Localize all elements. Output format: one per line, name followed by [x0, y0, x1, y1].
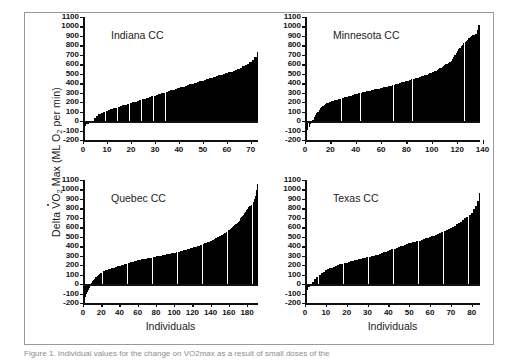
y-tick-label: 400 — [288, 79, 301, 87]
x-tick-label: 20 — [342, 309, 351, 317]
y-tick-mark — [302, 256, 306, 257]
y-tick-mark — [302, 64, 306, 65]
y-tick-label: 800 — [66, 41, 79, 49]
x-tick-label: 0 — [303, 146, 307, 154]
y-tick-label: -100 — [63, 127, 79, 135]
y-tick-label: 100 — [66, 108, 79, 116]
y-tick-mark — [302, 26, 306, 27]
y-tick-mark — [302, 93, 306, 94]
y-tick-mark — [80, 275, 84, 276]
y-tick-label: 700 — [288, 51, 301, 59]
y-tick-mark — [80, 199, 84, 200]
x-tick-mark — [131, 140, 132, 144]
x-tick-label: 100 — [425, 146, 438, 154]
zero-baseline — [83, 284, 258, 286]
x-tick-mark — [457, 140, 458, 144]
x-tick-mark — [432, 140, 433, 144]
x-tick-mark — [483, 140, 484, 144]
x-tick-mark — [381, 140, 382, 144]
x-tick-labels-indiana: 010203040506070 — [83, 146, 258, 158]
y-tick-mark — [80, 83, 84, 84]
y-tick-label: 400 — [288, 242, 301, 250]
y-tick-label: -200 — [285, 136, 301, 144]
y-tick-labels-minnesota: 110010009008007006005004003002001000-100… — [277, 17, 303, 140]
x-tick-label: 60 — [133, 309, 142, 317]
y-tick-label: 600 — [288, 223, 301, 231]
y-tick-label: 1000 — [61, 185, 79, 193]
x-tick-label: 80 — [151, 309, 160, 317]
x-tick-mark — [203, 140, 204, 144]
y-tick-label: 0 — [297, 117, 301, 125]
x-tick-mark — [430, 303, 431, 307]
y-tick-mark — [80, 17, 84, 18]
x-tick-mark — [156, 303, 157, 307]
x-tick-mark — [211, 303, 212, 307]
y-tick-label: 500 — [66, 70, 79, 78]
y-tick-mark — [302, 218, 306, 219]
figure-root: Delta VO2 Max (ML O2 per min) 1100100090… — [0, 0, 515, 360]
x-tick-mark — [192, 303, 193, 307]
x-tick-label: 30 — [150, 146, 159, 154]
y-tick-label: 900 — [288, 195, 301, 203]
y-tick-label: 700 — [66, 51, 79, 59]
x-tick-mark — [247, 303, 248, 307]
x-axis-spine — [83, 140, 258, 142]
y-tick-mark — [80, 74, 84, 75]
x-tick-mark — [155, 140, 156, 144]
x-tick-label: 60 — [222, 146, 231, 154]
y-tick-label: 900 — [66, 32, 79, 40]
y-tick-label: -200 — [63, 299, 79, 307]
x-tick-label: 60 — [426, 309, 435, 317]
y-tick-label: -200 — [285, 299, 301, 307]
y-tick-mark — [302, 102, 306, 103]
x-tick-label: 120 — [186, 309, 199, 317]
y-tick-label: 600 — [288, 60, 301, 68]
y-tick-label: 800 — [288, 204, 301, 212]
panel-title-indiana: Indiana CC — [111, 29, 164, 41]
x-tick-mark — [179, 140, 180, 144]
x-tick-mark — [83, 140, 84, 144]
y-tick-mark — [80, 45, 84, 46]
y-tick-mark — [302, 189, 306, 190]
plot-area-indiana — [83, 17, 258, 140]
y-tick-label: 200 — [66, 98, 79, 106]
y-tick-label: 500 — [66, 233, 79, 241]
y-tick-label: 1000 — [283, 22, 301, 30]
y-tick-mark — [80, 189, 84, 190]
y-tick-mark — [302, 55, 306, 56]
x-tick-mark — [305, 303, 306, 307]
x-tick-label: 0 — [303, 309, 307, 317]
plot-area-texas — [305, 180, 480, 303]
y-tick-mark — [80, 237, 84, 238]
x-tick-mark — [409, 303, 410, 307]
y-tick-mark — [302, 265, 306, 266]
y-tick-labels-texas: 110010009008007006005004003002001000-100… — [277, 180, 303, 303]
y-tick-label: 300 — [66, 252, 79, 260]
y-tick-label: 500 — [288, 233, 301, 241]
y-tick-mark — [302, 131, 306, 132]
y-tick-label: 300 — [288, 252, 301, 260]
x-tick-mark — [305, 140, 306, 144]
panel-quebec: 110010009008007006005004003002001000-100… — [55, 180, 269, 338]
x-tick-label: 80 — [402, 146, 411, 154]
x-tick-label: 70 — [446, 309, 455, 317]
y-tick-mark — [80, 36, 84, 37]
panel-title-quebec: Quebec CC — [111, 192, 166, 204]
zero-baseline — [305, 284, 480, 286]
y-tick-label: 200 — [288, 261, 301, 269]
x-tick-mark — [227, 140, 228, 144]
y-tick-mark — [80, 55, 84, 56]
panel-title-minnesota: Minnesota CC — [333, 29, 400, 41]
x-tick-label: 100 — [167, 309, 180, 317]
y-tick-mark — [302, 227, 306, 228]
x-tick-label: 120 — [450, 146, 463, 154]
y-tick-label: 1000 — [61, 22, 79, 30]
y-tick-label: 0 — [75, 280, 79, 288]
x-tick-label: 10 — [321, 309, 330, 317]
x-tick-mark — [107, 140, 108, 144]
x-tick-label: 20 — [97, 309, 106, 317]
y-tick-label: 100 — [288, 271, 301, 279]
y-tick-mark — [80, 112, 84, 113]
y-tick-mark — [80, 218, 84, 219]
y-tick-mark — [302, 83, 306, 84]
